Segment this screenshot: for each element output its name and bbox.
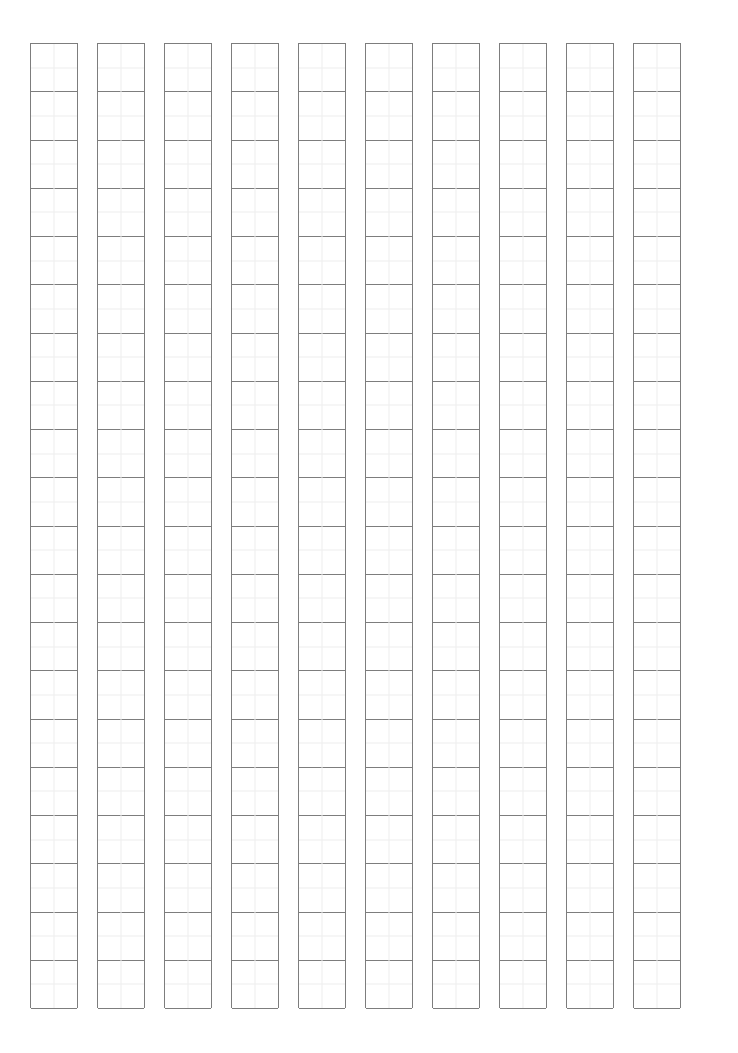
grid-cell[interactable] [433,768,479,816]
grid-cell[interactable] [31,961,77,1009]
grid-cell[interactable] [98,141,144,189]
grid-cell[interactable] [165,382,211,430]
grid-cell[interactable] [98,720,144,768]
grid-cell[interactable] [165,623,211,671]
grid-cell[interactable] [634,141,680,189]
grid-cell[interactable] [500,864,546,912]
grid-cell[interactable] [634,382,680,430]
grid-cell[interactable] [433,189,479,237]
grid-cell[interactable] [31,430,77,478]
grid-cell[interactable] [500,237,546,285]
grid-cell[interactable] [299,285,345,333]
grid-cell[interactable] [433,44,479,92]
grid-cell[interactable] [366,816,412,864]
grid-cell[interactable] [366,864,412,912]
grid-cell[interactable] [567,864,613,912]
grid-cell[interactable] [165,285,211,333]
grid-cell[interactable] [299,961,345,1009]
grid-cell[interactable] [232,382,278,430]
grid-cell[interactable] [31,92,77,140]
grid-cell[interactable] [634,671,680,719]
grid-cell[interactable] [232,864,278,912]
grid-cell[interactable] [165,237,211,285]
grid-cell[interactable] [433,285,479,333]
grid-cell[interactable] [366,92,412,140]
grid-cell[interactable] [299,575,345,623]
grid-cell[interactable] [567,575,613,623]
grid-cell[interactable] [31,671,77,719]
grid-cell[interactable] [634,913,680,961]
grid-cell[interactable] [567,237,613,285]
grid-cell[interactable] [366,913,412,961]
grid-cell[interactable] [31,237,77,285]
grid-cell[interactable] [165,141,211,189]
grid-cell[interactable] [31,768,77,816]
grid-cell[interactable] [433,334,479,382]
grid-cell[interactable] [232,816,278,864]
grid-cell[interactable] [299,189,345,237]
grid-cell[interactable] [232,285,278,333]
grid-cell[interactable] [634,478,680,526]
grid-cell[interactable] [366,961,412,1009]
grid-cell[interactable] [232,44,278,92]
grid-cell[interactable] [98,575,144,623]
grid-cell[interactable] [366,768,412,816]
grid-cell[interactable] [299,720,345,768]
grid-cell[interactable] [433,864,479,912]
grid-cell[interactable] [500,478,546,526]
grid-cell[interactable] [232,237,278,285]
grid-cell[interactable] [567,44,613,92]
grid-cell[interactable] [500,44,546,92]
grid-cell[interactable] [165,575,211,623]
grid-cell[interactable] [634,575,680,623]
grid-cell[interactable] [500,575,546,623]
grid-cell[interactable] [165,913,211,961]
grid-cell[interactable] [433,816,479,864]
grid-cell[interactable] [98,189,144,237]
grid-cell[interactable] [31,623,77,671]
grid-cell[interactable] [500,768,546,816]
grid-cell[interactable] [165,527,211,575]
grid-cell[interactable] [299,913,345,961]
grid-cell[interactable] [567,334,613,382]
grid-cell[interactable] [98,44,144,92]
grid-cell[interactable] [232,961,278,1009]
grid-cell[interactable] [299,382,345,430]
grid-cell[interactable] [232,189,278,237]
grid-cell[interactable] [232,768,278,816]
grid-cell[interactable] [299,237,345,285]
grid-cell[interactable] [567,816,613,864]
grid-cell[interactable] [634,92,680,140]
grid-cell[interactable] [165,44,211,92]
grid-cell[interactable] [433,623,479,671]
grid-cell[interactable] [98,430,144,478]
grid-cell[interactable] [366,334,412,382]
grid-cell[interactable] [634,334,680,382]
grid-cell[interactable] [366,44,412,92]
grid-cell[interactable] [567,92,613,140]
grid-cell[interactable] [500,720,546,768]
grid-cell[interactable] [165,189,211,237]
grid-cell[interactable] [500,816,546,864]
grid-cell[interactable] [31,720,77,768]
grid-cell[interactable] [433,237,479,285]
grid-cell[interactable] [31,478,77,526]
grid-cell[interactable] [567,527,613,575]
grid-cell[interactable] [98,92,144,140]
grid-cell[interactable] [567,720,613,768]
grid-cell[interactable] [165,334,211,382]
grid-cell[interactable] [299,671,345,719]
grid-cell[interactable] [98,527,144,575]
grid-cell[interactable] [299,816,345,864]
grid-cell[interactable] [634,237,680,285]
grid-cell[interactable] [366,575,412,623]
grid-cell[interactable] [366,237,412,285]
grid-cell[interactable] [31,334,77,382]
grid-cell[interactable] [31,575,77,623]
grid-cell[interactable] [500,334,546,382]
grid-cell[interactable] [634,961,680,1009]
grid-cell[interactable] [232,527,278,575]
grid-cell[interactable] [165,430,211,478]
grid-cell[interactable] [31,382,77,430]
grid-cell[interactable] [634,768,680,816]
